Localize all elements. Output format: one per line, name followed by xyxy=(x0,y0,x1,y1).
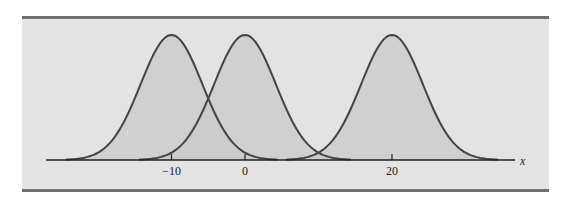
curve-fill-2 xyxy=(286,35,498,160)
curves-group xyxy=(66,35,499,160)
x-tick-label: 0 xyxy=(242,164,248,178)
normal-curves-chart: −10020 x xyxy=(0,0,571,206)
x-tick-label: −10 xyxy=(162,164,181,178)
x-axis-label: x xyxy=(519,154,526,168)
x-tick-label: 20 xyxy=(386,164,398,178)
